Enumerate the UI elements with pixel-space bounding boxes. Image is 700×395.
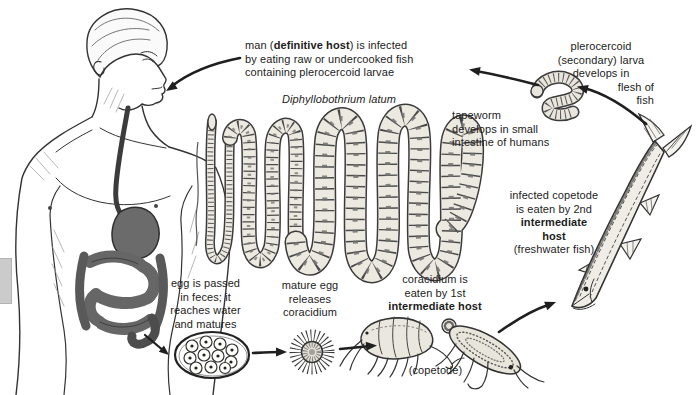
label-man-line3: containing plerocercoid larvae (245, 66, 465, 80)
arrow-intestine-to-egg (145, 335, 172, 358)
label-infected-copepod: infected copetode is eaten by 2nd interm… (498, 189, 610, 257)
squiggle-line (196, 142, 198, 246)
infected-copepod-figure (436, 317, 544, 389)
scolex (208, 114, 216, 130)
intestines (90, 257, 155, 329)
nipple (154, 204, 158, 208)
label-man-infection: man (definitive host) is infected by eat… (245, 39, 465, 80)
digestive-tract (80, 108, 164, 344)
label-coracidium: coracidium is eaten by 1st intermediate … (376, 273, 494, 314)
fish-eye (584, 287, 589, 292)
tapeworm-figure (208, 114, 473, 272)
fin (620, 239, 641, 259)
label-copepod-caption: (copetode) (388, 364, 483, 378)
hair (87, 9, 167, 77)
label-tapeworm: tapeworm develops in small intestine of … (452, 109, 577, 150)
label-man-line1: man (definitive host) is infected (245, 39, 465, 53)
arrow-larva-to-man-text (468, 65, 538, 85)
label-egg: egg is passed in feces; it reaches water… (158, 277, 253, 331)
larva-head (531, 85, 543, 97)
copepod-eye (365, 331, 368, 334)
tail-fin (639, 114, 664, 142)
label-mature-egg: mature egg releases coracidium (264, 279, 356, 320)
arrow-egg-to-coracidium (253, 348, 287, 357)
tapeworm-wide (296, 115, 473, 272)
copepod-body (361, 318, 433, 359)
egg-mass-figure (175, 332, 249, 378)
mouth (152, 87, 162, 89)
label-man-line2: by eating raw or undercooked fish (245, 53, 465, 67)
life-cycle-diagram: man (definitive host) is infected by eat… (0, 0, 700, 395)
label-species: Diphyllobothrium latum (282, 93, 442, 107)
esophagus (116, 108, 128, 213)
arrow-copepod-to-fish (499, 298, 558, 332)
label-plerocercoid: plerocercoid (secondary) larva develops … (546, 40, 656, 108)
copepod-antennae (340, 340, 364, 370)
arrow-text-to-mouth (164, 58, 240, 95)
nipple (48, 206, 52, 210)
coracidium-figure (296, 336, 328, 368)
